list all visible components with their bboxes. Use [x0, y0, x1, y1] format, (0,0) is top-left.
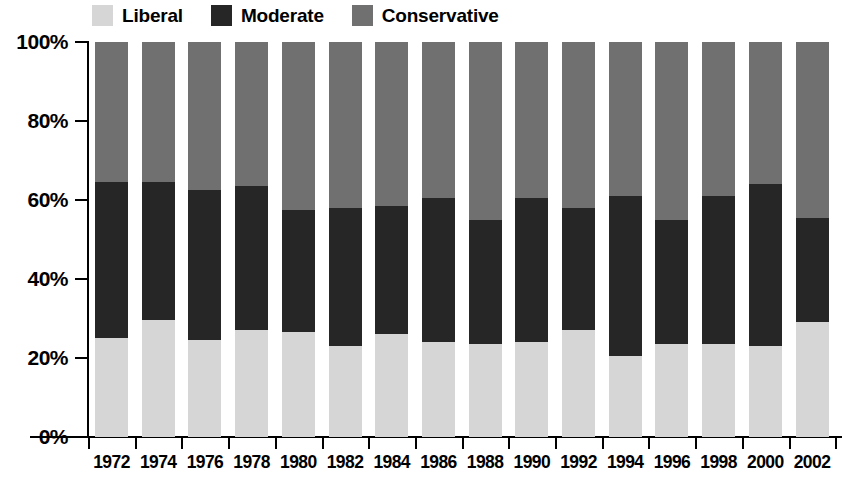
x-tick-label: 1978: [233, 452, 270, 473]
bar-segment-moderate-1994[interactable]: [609, 196, 642, 356]
x-tick-label: 1984: [373, 452, 410, 473]
bar-segment-liberal-2002[interactable]: [796, 322, 829, 437]
x-tick-mark: [228, 438, 230, 449]
y-tick-label: 60%: [27, 188, 68, 212]
x-tick-label: 1990: [514, 452, 551, 473]
bar-segment-moderate-1986[interactable]: [422, 198, 455, 342]
bar-segment-conservative-1994[interactable]: [609, 42, 642, 196]
y-tick-mark: [75, 199, 88, 201]
bar-group-1994[interactable]: [609, 42, 642, 437]
bar-segment-liberal-1976[interactable]: [188, 340, 221, 437]
bar-segment-conservative-1986[interactable]: [422, 42, 455, 198]
bar-group-1984[interactable]: [375, 42, 408, 437]
y-tick-label: 100%: [16, 30, 68, 54]
x-tick-mark: [462, 438, 464, 449]
bar-segment-liberal-1986[interactable]: [422, 342, 455, 437]
bar-segment-liberal-2000[interactable]: [749, 346, 782, 437]
bar-segment-conservative-1988[interactable]: [469, 42, 502, 220]
bar-segment-liberal-1998[interactable]: [702, 344, 735, 437]
bar-group-1980[interactable]: [282, 42, 315, 437]
y-tick-label: 0%: [39, 425, 68, 449]
bar-group-1998[interactable]: [702, 42, 735, 437]
x-tick-label: 1992: [560, 452, 597, 473]
x-tick-mark: [415, 438, 417, 449]
legend-swatch-icon: [211, 5, 232, 26]
bar-segment-liberal-1994[interactable]: [609, 356, 642, 437]
bar-segment-conservative-1992[interactable]: [562, 42, 595, 208]
bar-segment-liberal-1984[interactable]: [375, 334, 408, 437]
x-tick-label: 1982: [327, 452, 364, 473]
x-tick-mark: [135, 438, 137, 449]
bar-group-1976[interactable]: [188, 42, 221, 437]
bar-segment-conservative-1978[interactable]: [235, 42, 268, 186]
plot-area: [88, 42, 842, 437]
bar-segment-moderate-1982[interactable]: [329, 208, 362, 346]
bar-segment-moderate-1996[interactable]: [655, 220, 688, 344]
x-tick-mark: [368, 438, 370, 449]
bar-group-2000[interactable]: [749, 42, 782, 437]
bar-segment-conservative-2002[interactable]: [796, 42, 829, 218]
bar-segment-moderate-1998[interactable]: [702, 196, 735, 344]
legend-item-label: Liberal: [122, 5, 183, 26]
bar-segment-liberal-1988[interactable]: [469, 344, 502, 437]
x-tick-label: 2000: [747, 452, 784, 473]
bar-segment-conservative-1990[interactable]: [515, 42, 548, 198]
bar-segment-moderate-2002[interactable]: [796, 218, 829, 323]
bar-group-1972[interactable]: [95, 42, 128, 437]
bar-segment-conservative-1974[interactable]: [142, 42, 175, 182]
bar-segment-moderate-1992[interactable]: [562, 208, 595, 330]
x-tick-label: 1996: [654, 452, 691, 473]
bar-group-1996[interactable]: [655, 42, 688, 437]
bar-segment-moderate-1972[interactable]: [95, 182, 128, 338]
x-tick-mark: [835, 438, 837, 449]
y-tick-label: 80%: [27, 109, 68, 133]
legend-item-conservative[interactable]: Conservative: [352, 5, 499, 26]
bar-segment-moderate-1974[interactable]: [142, 182, 175, 320]
bar-segment-conservative-1982[interactable]: [329, 42, 362, 208]
bar-segment-conservative-1984[interactable]: [375, 42, 408, 206]
legend-item-moderate[interactable]: Moderate: [211, 5, 324, 26]
bar-segment-moderate-1976[interactable]: [188, 190, 221, 340]
bar-segment-moderate-1988[interactable]: [469, 220, 502, 344]
y-tick-label: 40%: [27, 267, 68, 291]
x-tick-label: 1988: [467, 452, 504, 473]
bar-group-1990[interactable]: [515, 42, 548, 437]
x-tick-label: 2002: [794, 452, 831, 473]
stacked-bar-chart: LiberalModerateConservative 100%80%60%40…: [0, 0, 842, 478]
x-tick-label: 1972: [93, 452, 130, 473]
legend-swatch-icon: [92, 5, 113, 26]
bar-segment-liberal-1996[interactable]: [655, 344, 688, 437]
bar-group-1982[interactable]: [329, 42, 362, 437]
bar-segment-liberal-1982[interactable]: [329, 346, 362, 437]
x-tick-mark: [648, 438, 650, 449]
bar-segment-liberal-1972[interactable]: [95, 338, 128, 437]
bar-segment-conservative-1998[interactable]: [702, 42, 735, 196]
bar-segment-conservative-1976[interactable]: [188, 42, 221, 190]
bar-segment-liberal-1990[interactable]: [515, 342, 548, 437]
bar-segment-moderate-2000[interactable]: [749, 184, 782, 346]
bar-segment-liberal-1978[interactable]: [235, 330, 268, 437]
bar-segment-conservative-2000[interactable]: [749, 42, 782, 184]
bar-group-2002[interactable]: [796, 42, 829, 437]
y-tick-label: 20%: [27, 346, 68, 370]
bar-segment-liberal-1980[interactable]: [282, 332, 315, 437]
bar-group-1974[interactable]: [142, 42, 175, 437]
bar-group-1988[interactable]: [469, 42, 502, 437]
bar-segment-moderate-1978[interactable]: [235, 186, 268, 330]
bar-group-1978[interactable]: [235, 42, 268, 437]
x-tick-mark: [181, 438, 183, 449]
legend-swatch-icon: [352, 5, 373, 26]
x-tick-label: 1976: [187, 452, 224, 473]
bar-segment-liberal-1974[interactable]: [142, 320, 175, 437]
bar-segment-moderate-1984[interactable]: [375, 206, 408, 334]
bar-group-1986[interactable]: [422, 42, 455, 437]
bar-segment-conservative-1996[interactable]: [655, 42, 688, 220]
x-tick-mark: [88, 438, 90, 449]
legend-item-liberal[interactable]: Liberal: [92, 5, 183, 26]
bar-group-1992[interactable]: [562, 42, 595, 437]
bar-segment-conservative-1980[interactable]: [282, 42, 315, 210]
bar-segment-moderate-1980[interactable]: [282, 210, 315, 332]
bar-segment-liberal-1992[interactable]: [562, 330, 595, 437]
bar-segment-moderate-1990[interactable]: [515, 198, 548, 342]
bar-segment-conservative-1972[interactable]: [95, 42, 128, 182]
